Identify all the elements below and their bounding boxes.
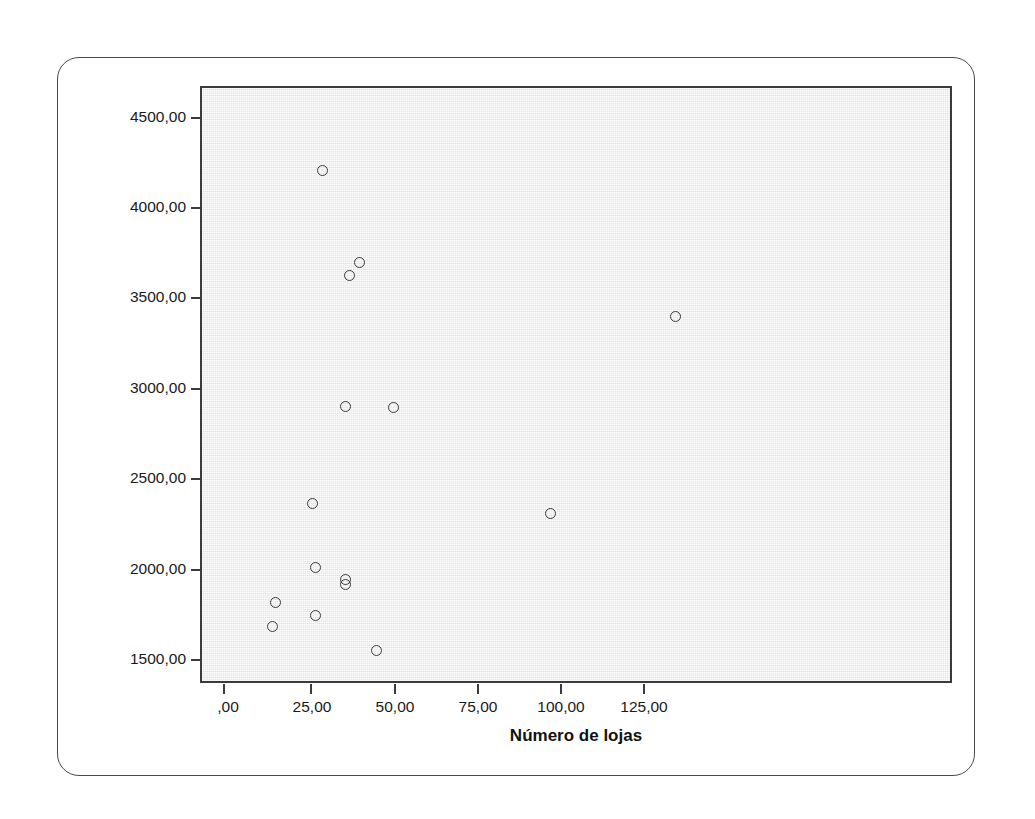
x-axis-tick-mark [643,684,645,694]
data-point [371,645,382,656]
y-axis-tick-mark [191,207,200,209]
x-tick-label: 75,00 [459,698,498,716]
y-tick-label: 4500,00 [130,108,186,126]
scatter-plot-panel [200,86,952,683]
y-tick-label: 2500,00 [130,469,186,487]
data-point [270,597,281,608]
data-point [670,311,681,322]
y-axis-tick-mark [191,569,200,571]
y-axis-tick-mark [191,117,200,119]
data-point [317,165,328,176]
x-tick-label: 100,00 [537,698,584,716]
data-point [310,610,321,621]
y-axis-tick-mark [191,297,200,299]
y-axis-tick-mark [191,659,200,661]
data-point [307,498,318,509]
y-tick-label: 3500,00 [130,288,186,306]
y-tick-label: 3000,00 [130,379,186,397]
data-point [267,621,278,632]
y-axis-tick-group: 4500,00 4000,00 3500,00 3000,00 2500,00 … [0,0,186,819]
x-axis-tick-mark [560,684,562,694]
x-tick-label: 50,00 [376,698,415,716]
data-point [310,562,321,573]
x-tick-label: 25,00 [293,698,332,716]
data-point [545,508,556,519]
x-axis-tick-mark [310,684,312,694]
chart-page: Faturamento (R$ milhões) 4500,00 4000,00… [0,0,1035,819]
data-point [388,402,399,413]
y-axis-tick-mark [191,478,200,480]
x-axis-tick-mark [477,684,479,694]
y-tick-label: 1500,00 [130,650,186,668]
data-point [354,257,365,268]
x-tick-label: 125,00 [620,698,667,716]
data-point [344,270,355,281]
x-tick-label: ,00 [217,698,239,716]
x-axis-tick-mark [394,684,396,694]
x-axis-tick-mark [223,684,225,694]
y-tick-label: 4000,00 [130,198,186,216]
data-point [340,401,351,412]
data-point [340,579,351,590]
y-axis-tick-mark [191,388,200,390]
y-tick-label: 2000,00 [130,560,186,578]
x-axis-title: Número de lojas [200,726,952,746]
